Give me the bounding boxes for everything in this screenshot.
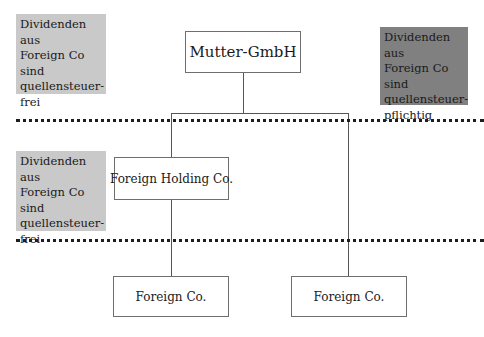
dotted-separator-2	[16, 239, 484, 242]
note-line: Dividenden aus	[384, 30, 464, 61]
entity-foreign-holding-co: Foreign Holding Co.	[114, 157, 229, 200]
note-middle-left-withholding-tax-exempt: Dividenden aus Foreign Co sind quellenst…	[16, 151, 106, 231]
entity-foreign-co-left: Foreign Co.	[113, 276, 229, 317]
connector-to-foreign-co-right	[348, 113, 349, 277]
note-line: sind	[20, 64, 102, 80]
connector-parent-down	[243, 73, 244, 114]
note-line: Dividenden aus	[20, 154, 102, 185]
note-line: Dividenden aus	[20, 17, 102, 48]
connector-branch-horizontal	[171, 113, 349, 114]
entity-mutter-gmbh: Mutter-GmbH	[185, 31, 301, 73]
entity-label: Foreign Co.	[314, 290, 385, 304]
note-line: Foreign Co	[20, 185, 102, 201]
entity-label: Foreign Co.	[136, 290, 207, 304]
entity-foreign-co-right: Foreign Co.	[291, 276, 407, 317]
dotted-separator-1	[16, 119, 484, 122]
note-line: sind	[384, 77, 464, 93]
note-line: quellensteuer-	[20, 216, 102, 232]
note-line: Foreign Co	[20, 48, 102, 64]
entity-label: Mutter-GmbH	[189, 43, 296, 61]
note-line: quellensteuer-	[20, 79, 102, 95]
note-line: quellensteuer-	[384, 92, 464, 108]
note-line: sind	[20, 201, 102, 217]
note-top-right-withholding-tax-liable: Dividenden aus Foreign Co sind quellenst…	[380, 27, 468, 105]
note-line: Foreign Co	[384, 61, 464, 77]
note-line: frei	[20, 95, 102, 111]
note-top-left-withholding-tax-exempt: Dividenden aus Foreign Co sind quellenst…	[16, 14, 106, 94]
entity-label: Foreign Holding Co.	[110, 172, 233, 186]
